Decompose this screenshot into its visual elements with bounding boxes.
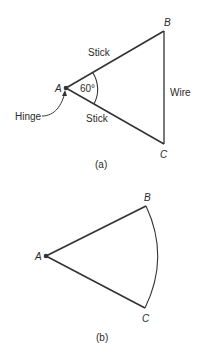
stick-ac-b	[46, 256, 145, 308]
hinge-label: Hinge	[15, 111, 42, 122]
stick-ac	[66, 88, 164, 144]
pivot-a-b	[44, 254, 49, 259]
figure-a: A B C Stick Stick Wire 60° Hinge (a)	[15, 17, 191, 170]
hinge-arrowhead-icon	[62, 90, 67, 96]
point-a-label-b: A	[34, 251, 42, 262]
point-c-label: C	[160, 149, 168, 160]
hinge-pin	[64, 86, 69, 91]
stick-top-label: Stick	[88, 47, 111, 58]
point-c-label-b: C	[142, 313, 150, 324]
hinge-arrow	[42, 92, 65, 116]
point-b-label-b: B	[144, 192, 151, 203]
stick-ab	[66, 31, 164, 88]
point-a-label: A	[54, 83, 62, 94]
stick-ab-b	[46, 206, 146, 256]
point-b-label: B	[164, 17, 171, 28]
caption-b: (b)	[96, 332, 108, 343]
wire-label: Wire	[170, 87, 191, 98]
figure-canvas: A B C Stick Stick Wire 60° Hinge (a) A B…	[0, 0, 210, 357]
angle-label: 60°	[80, 83, 95, 94]
caption-a: (a)	[95, 159, 107, 170]
arc-bc	[145, 206, 158, 308]
figure-b: A B C (b)	[34, 192, 158, 343]
stick-bottom-label: Stick	[86, 113, 109, 124]
